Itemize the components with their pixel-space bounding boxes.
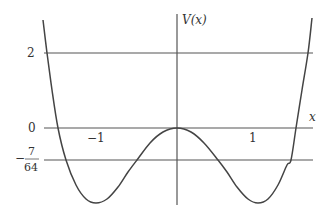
tick-label-0: 0: [28, 121, 36, 135]
tick-label-frac-num: 7: [28, 145, 35, 158]
tick-label-frac-den: 64: [24, 161, 38, 174]
tick-label-x-pos1: 1: [249, 131, 257, 145]
y-axis-label: V(x): [182, 13, 207, 27]
tick-label-2: 2: [27, 46, 35, 60]
x-axis-label: x: [309, 110, 316, 124]
potential-plot: V(x) x 2 0 − 7 64 −1 1: [0, 0, 331, 216]
tick-label-x-neg1: −1: [87, 131, 105, 145]
